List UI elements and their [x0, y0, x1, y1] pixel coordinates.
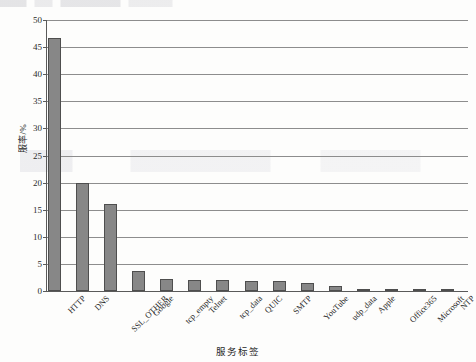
bar	[48, 38, 61, 291]
bar	[329, 286, 342, 291]
bar	[385, 289, 398, 291]
y-tick-label: 50	[33, 16, 42, 25]
bar	[301, 283, 314, 291]
y-tick-label: 10	[33, 233, 42, 242]
bar	[245, 281, 258, 291]
x-tick-label: Microsoft	[436, 294, 466, 324]
bar	[413, 289, 426, 291]
x-axis-tick-labels: HTTPDNSSSL_OTHERGoogletcp_emptyTelnettcp…	[46, 292, 468, 352]
y-tick-label: 30	[33, 124, 42, 133]
x-tick-label: DNS	[93, 294, 111, 312]
bars-layer	[46, 20, 468, 291]
y-tick-label: 0	[38, 287, 43, 296]
bar	[216, 280, 229, 291]
y-axis-tick-labels: 05101520253035404550	[14, 0, 42, 362]
bar	[160, 279, 173, 291]
bar	[188, 280, 201, 291]
y-tick-label: 5	[38, 260, 43, 269]
y-tick-label: 45	[33, 43, 42, 52]
x-tick-label: tcp_data	[237, 294, 264, 321]
bar	[273, 281, 286, 291]
x-axis-title: 服务标签	[0, 344, 476, 358]
x-tick-label: SMTP	[292, 294, 314, 316]
bar	[357, 289, 370, 291]
x-tick-label: Google	[152, 294, 176, 318]
x-tick-label: Apple	[376, 294, 397, 315]
bar	[76, 183, 89, 291]
x-tick-label: Office365	[408, 294, 439, 325]
y-tick-label: 25	[33, 152, 42, 161]
y-tick-label: 15	[33, 206, 42, 215]
x-tick-label: HTTP	[66, 294, 87, 315]
y-axis-title: 服率/%	[16, 109, 29, 169]
bar-chart: 05101520253035404550 HTTPDNSSSL_OTHERGoo…	[0, 0, 476, 362]
y-tick-label: 20	[33, 179, 42, 188]
x-tick-label: QUIC	[263, 294, 284, 315]
y-tick-label: 40	[33, 70, 42, 79]
y-tick-label: 35	[33, 97, 42, 106]
bar	[132, 271, 145, 291]
bar	[441, 289, 454, 291]
x-tick-label: YouTube	[322, 294, 350, 322]
bar	[104, 204, 117, 291]
